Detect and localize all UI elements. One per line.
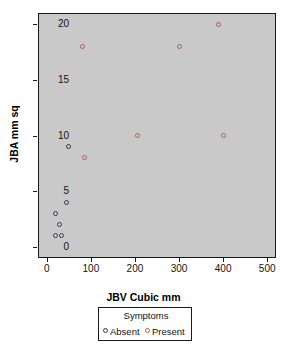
- plot-panel: [38, 13, 276, 258]
- x-axis-title: JBV Cubic mm: [0, 291, 287, 303]
- y-tick-label: 5: [41, 186, 69, 196]
- y-tick-mark: [33, 136, 37, 137]
- y-tick-mark: [33, 191, 37, 192]
- x-tick-mark: [135, 258, 136, 262]
- x-tick-label: 200: [115, 264, 155, 274]
- data-point: [64, 200, 69, 205]
- y-tick-mark: [33, 80, 37, 81]
- y-tick-mark: [33, 247, 37, 248]
- x-tick-label: 100: [71, 264, 111, 274]
- y-tick-label: 10: [41, 131, 69, 141]
- legend-entry-label: Absent: [110, 326, 140, 337]
- legend-entries: Absent Present: [99, 325, 193, 339]
- data-point: [177, 44, 182, 49]
- x-tick-mark: [91, 258, 92, 262]
- y-tick-label: 0: [41, 242, 69, 252]
- data-point: [57, 222, 62, 227]
- y-tick-label: 15: [41, 75, 69, 85]
- x-tick-label: 0: [27, 264, 67, 274]
- open-circle-icon: [103, 328, 108, 333]
- x-tick-mark: [223, 258, 224, 262]
- data-point: [216, 22, 221, 27]
- legend-title: Symptoms: [99, 310, 193, 321]
- x-tick-label: 300: [159, 264, 199, 274]
- legend-entry-label: Present: [152, 326, 185, 337]
- data-point: [80, 44, 85, 49]
- y-axis-title: JBA mm sq: [8, 84, 20, 184]
- legend-entry-present[interactable]: Present: [145, 325, 185, 339]
- y-tick-label: 20: [41, 19, 69, 29]
- data-point: [135, 133, 140, 138]
- data-point: [221, 133, 226, 138]
- x-tick-mark: [47, 258, 48, 262]
- x-tick-mark: [267, 258, 268, 262]
- x-tick-label: 500: [247, 264, 287, 274]
- x-tick-mark: [179, 258, 180, 262]
- y-tick-mark: [33, 24, 37, 25]
- x-tick-label: 400: [203, 264, 243, 274]
- legend-entry-absent[interactable]: Absent: [103, 325, 140, 339]
- legend-box: Symptoms Absent Present: [98, 307, 192, 341]
- scatter-plot-figure: 051015200100200300400500 JBV Cubic mm JB…: [0, 0, 287, 344]
- open-circle-icon: [145, 328, 150, 333]
